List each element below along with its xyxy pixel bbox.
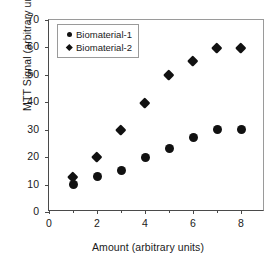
y-tick-label: 10 — [27, 178, 39, 191]
x-axis-title: Amount (arbitrary units) — [48, 241, 248, 253]
y-tick: 50 — [45, 75, 49, 76]
data-point — [189, 133, 198, 142]
x-tick-minor — [169, 210, 170, 213]
x-tick: 6 — [193, 210, 194, 214]
y-tick: 40 — [45, 102, 49, 103]
y-tick-label: 30 — [27, 123, 39, 136]
x-tick-minor — [217, 210, 218, 213]
x-tick: 2 — [97, 210, 98, 214]
y-tick: 30 — [45, 130, 49, 131]
x-tick-label: 0 — [37, 217, 61, 230]
data-point — [188, 56, 199, 67]
data-point — [116, 124, 127, 135]
data-point — [117, 166, 126, 175]
x-tick-minor — [73, 210, 74, 213]
legend-item-label: Biomaterial-1 — [76, 28, 132, 41]
data-point — [141, 153, 150, 162]
circle-marker-icon — [62, 28, 76, 41]
x-tick: 0 — [49, 210, 50, 214]
plot-area: 010203040506070 02468 Biomaterial-1Bioma… — [48, 19, 264, 211]
y-tick: 10 — [45, 185, 49, 186]
x-tick: 8 — [241, 210, 242, 214]
legend-item[interactable]: Biomaterial-2 — [62, 41, 132, 54]
chart-legend: Biomaterial-1Biomaterial-2 — [57, 24, 139, 58]
y-tick: 20 — [45, 157, 49, 158]
data-point — [165, 144, 174, 153]
data-point — [93, 172, 102, 181]
legend-item[interactable]: Biomaterial-1 — [62, 28, 132, 41]
x-tick: 4 — [145, 210, 146, 214]
data-point — [164, 70, 175, 81]
y-tick: 70 — [45, 20, 49, 21]
diamond-marker-icon — [62, 41, 76, 54]
scatter-chart-figure: MTT Signal (arbitrary units) 01020304050… — [0, 0, 280, 264]
legend-item-label: Biomaterial-2 — [76, 41, 132, 54]
y-tick-label: 40 — [27, 95, 39, 108]
data-point — [92, 152, 103, 163]
data-point — [236, 42, 247, 53]
y-tick: 60 — [45, 47, 49, 48]
y-tick-label: 20 — [27, 150, 39, 163]
x-tick-label: 4 — [133, 217, 157, 230]
y-tick-label: 70 — [27, 13, 39, 26]
x-tick-label: 6 — [181, 217, 205, 230]
x-tick-label: 8 — [229, 217, 253, 230]
data-point — [68, 171, 79, 182]
data-point — [140, 97, 151, 108]
x-tick-label: 2 — [85, 217, 109, 230]
data-point — [212, 42, 223, 53]
x-tick-minor — [121, 210, 122, 213]
data-point — [237, 125, 246, 134]
data-point — [213, 125, 222, 134]
y-tick-label: 50 — [27, 68, 39, 81]
y-tick-label: 60 — [27, 40, 39, 53]
